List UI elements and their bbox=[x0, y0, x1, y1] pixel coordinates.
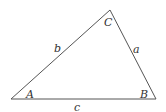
vertex-label-c: C bbox=[104, 16, 113, 29]
triangle-diagram: C b a A B c bbox=[0, 0, 166, 112]
side-label-c: c bbox=[74, 101, 80, 112]
side-label-a: a bbox=[133, 43, 140, 56]
vertex-label-a: A bbox=[25, 88, 34, 101]
vertex-label-b: B bbox=[139, 88, 148, 101]
side-label-b: b bbox=[54, 42, 61, 55]
